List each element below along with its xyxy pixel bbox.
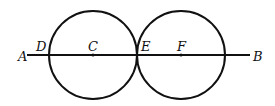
- label-F: F: [176, 39, 187, 54]
- label-C: C: [88, 39, 98, 54]
- label-A: A: [17, 49, 27, 64]
- geometry-diagram: A D C E F B: [0, 0, 275, 106]
- label-B: B: [252, 49, 263, 64]
- label-E: E: [140, 39, 151, 54]
- label-D: D: [35, 39, 47, 54]
